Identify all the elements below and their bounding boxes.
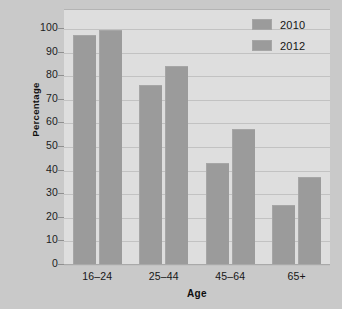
y-tick-label: 100 xyxy=(12,22,58,33)
y-tick-label: 0 xyxy=(12,258,58,269)
x-tick-label-16–24: 16–24 xyxy=(62,270,132,282)
y-tick-label: 40 xyxy=(12,164,58,175)
y-tick-mark xyxy=(58,217,64,218)
y-tick-mark xyxy=(58,240,64,241)
gridline xyxy=(64,265,330,266)
legend-swatch-icon xyxy=(252,19,272,30)
legend-item-2012: 2012 xyxy=(252,38,326,53)
y-tick-label: 90 xyxy=(12,46,58,57)
bar-2010-65+ xyxy=(272,205,295,264)
legend-item-2010: 2010 xyxy=(252,17,326,32)
y-tick-mark xyxy=(58,28,64,29)
x-tick-label-65+: 65+ xyxy=(262,270,332,282)
bar-2010-45–64 xyxy=(206,163,229,264)
x-tick-label-45–64: 45–64 xyxy=(195,270,265,282)
y-tick-mark xyxy=(58,52,64,53)
y-axis-title: Percentage xyxy=(30,67,41,153)
y-tick-mark xyxy=(58,264,64,265)
x-tick-label-25–44: 25–44 xyxy=(129,270,199,282)
bar-2012-45–64 xyxy=(232,129,255,264)
legend-label: 2012 xyxy=(280,40,305,52)
bar-chart: 1009080706050403020100 Percentage 16–242… xyxy=(0,0,342,309)
bar-2012-25–44 xyxy=(165,66,188,264)
bar-2012-16–24 xyxy=(99,30,122,264)
y-tick-mark xyxy=(58,75,64,76)
y-tick-mark xyxy=(58,193,64,194)
chart-legend: 20102012 xyxy=(252,17,326,59)
y-tick-mark xyxy=(58,146,64,147)
bar-2010-25–44 xyxy=(139,85,162,264)
y-tick-label: 20 xyxy=(12,211,58,222)
legend-swatch-icon xyxy=(252,40,272,51)
bar-2012-65+ xyxy=(298,177,321,264)
y-tick-mark xyxy=(58,170,64,171)
y-tick-mark xyxy=(58,99,64,100)
bar-2010-16–24 xyxy=(73,35,96,264)
y-tick-label: 10 xyxy=(12,234,58,245)
y-tick-label: 30 xyxy=(12,187,58,198)
x-axis-title: Age xyxy=(64,288,330,299)
legend-label: 2010 xyxy=(280,19,305,31)
y-tick-mark xyxy=(58,122,64,123)
